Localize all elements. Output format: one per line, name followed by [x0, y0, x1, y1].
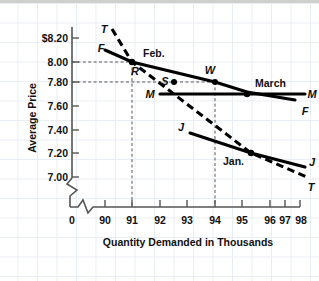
y-tick-label-7-20: 7.20: [48, 147, 69, 159]
point-labels: Feb. R S W March Jan.: [131, 47, 286, 167]
y-tick-labels: $8.20 8.00 7.80 7.60 7.40 7.20 7.00: [42, 32, 68, 183]
point-marker-jan: [248, 150, 254, 156]
x-tick-label-97: 97: [279, 214, 291, 226]
point-label-S: S: [161, 75, 169, 87]
point-label-feb: Feb.: [143, 47, 165, 59]
point-marker-march: [244, 91, 250, 97]
x-tick-labels: 0 90 91 92 93 94 95 96 97 98: [69, 214, 307, 226]
y-tick-label-7-00: 7.00: [48, 171, 69, 183]
x-tick-label-98: 98: [295, 214, 307, 226]
y-axis-title: Average Price: [26, 83, 38, 153]
demand-curve-chart: $8.20 8.00 7.80 7.60 7.40 7.20 7.00 0 90…: [0, 0, 319, 281]
x-axis-ticks: [105, 200, 300, 207]
x-tick-label-92: 92: [154, 214, 166, 226]
curve-label-F-right: F: [302, 105, 309, 117]
x-axis-title: Quantity Demanded in Thousands: [103, 236, 274, 248]
x-tick-label-95: 95: [236, 214, 248, 226]
point-marker-S: [171, 79, 177, 85]
axes: [67, 27, 300, 213]
point-label-W: W: [205, 64, 217, 76]
y-tick-label-8-20: $8.20: [42, 32, 68, 44]
y-tick-label-7-60: 7.60: [48, 100, 69, 112]
y-tick-label-7-40: 7.40: [48, 124, 69, 136]
curve-T: [112, 29, 309, 178]
point-label-R: R: [131, 65, 139, 77]
curve-label-M-right: M: [307, 88, 317, 100]
chart-svg: $8.20 8.00 7.80 7.60 7.40 7.20 7.00 0 90…: [0, 0, 319, 281]
x-tick-label-93: 93: [181, 214, 193, 226]
x-tick-label-94: 94: [209, 214, 221, 226]
x-tick-label-90: 90: [99, 214, 111, 226]
y-tick-label-8-00: 8.00: [48, 56, 69, 68]
curve-label-T-top: T: [101, 23, 109, 35]
curve-label-F-top: F: [98, 42, 105, 54]
x-tick-label-0: 0: [69, 214, 75, 226]
point-label-march: March: [255, 77, 286, 89]
curve-labels: T F M M F J J T: [98, 23, 318, 193]
x-tick-label-96: 96: [264, 214, 276, 226]
curve-label-T-right: T: [308, 181, 316, 193]
y-tick-label-7-80: 7.80: [48, 76, 69, 88]
series-curves: [105, 29, 309, 178]
point-label-jan: Jan.: [223, 155, 244, 167]
curve-label-M-left: M: [145, 88, 155, 100]
y-axis-break: [67, 178, 77, 207]
point-marker-W: [212, 79, 218, 85]
y-axis-ticks: [72, 38, 79, 177]
x-tick-label-91: 91: [126, 214, 138, 226]
curve-label-J-right: J: [309, 156, 316, 168]
curve-label-J-left: J: [178, 121, 185, 133]
